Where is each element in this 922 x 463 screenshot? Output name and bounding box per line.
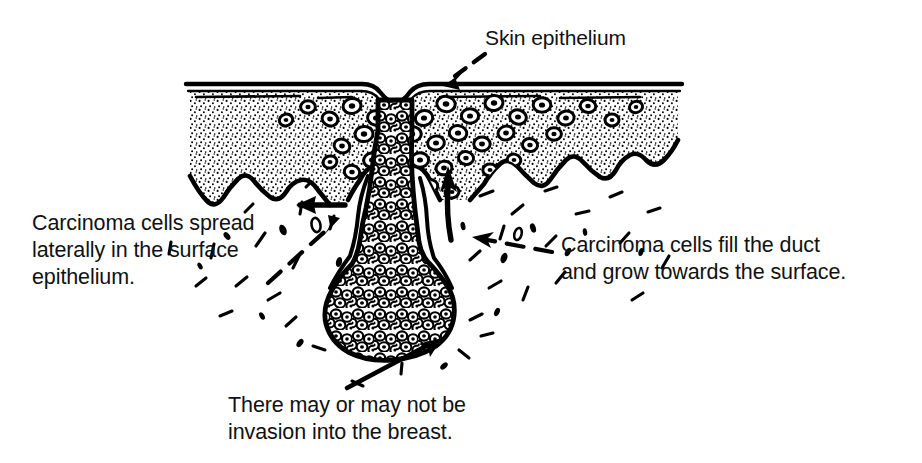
duct-fill-leader	[472, 232, 552, 252]
caption-invasion: There may or may not be invasion into th…	[228, 392, 466, 446]
caption-lateral-spread: Carcinoma cells spread laterally in the …	[32, 210, 254, 291]
caption-duct-fill: Carcinoma cells fill the duct and grow t…	[561, 232, 846, 286]
lateral-spread-leader	[268, 215, 340, 283]
figure-canvas: Skin epithelium Carcinoma cells spread l…	[0, 0, 922, 463]
caption-skin-epithelium: Skin epithelium	[485, 24, 626, 51]
